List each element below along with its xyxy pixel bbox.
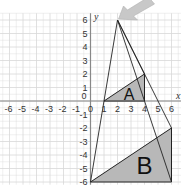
x-tick-label: -2: [59, 104, 67, 114]
y-tick-label: -1: [80, 110, 88, 120]
y-tick-label: -4: [80, 150, 88, 160]
x-tick-label: 6: [169, 104, 174, 114]
y-tick-label: 2: [83, 69, 88, 79]
x-tick-label: -3: [45, 104, 53, 114]
y-tick-label: -5: [80, 164, 88, 174]
x-tick-label: -6: [5, 104, 13, 114]
y-tick-label: -2: [80, 123, 88, 133]
y-axis-label: y: [93, 11, 99, 22]
x-tick-label: 3: [129, 104, 134, 114]
x-tick-label: 0: [88, 104, 93, 114]
svg-text:0: 0: [82, 91, 87, 101]
y-tick-label: 5: [83, 29, 88, 39]
x-axis-label: x: [175, 90, 181, 101]
x-tick-label: 2: [115, 104, 120, 114]
y-tick-label: -3: [80, 137, 88, 147]
shape-label-a: A: [124, 86, 135, 103]
y-tick-label: 3: [83, 56, 88, 66]
x-tick-label: -5: [18, 104, 26, 114]
y-tick-label: -6: [80, 177, 88, 187]
enlargement-diagram: -6-5-4-3-2-101234566543210-1-2-3-4-5-6 A…: [0, 0, 183, 193]
x-tick-label: -4: [32, 104, 40, 114]
pointer-arrow-icon: [119, 0, 155, 20]
y-tick-label: 6: [83, 15, 88, 25]
shape-label-b: B: [136, 152, 152, 179]
y-tick-label: 4: [83, 42, 88, 52]
